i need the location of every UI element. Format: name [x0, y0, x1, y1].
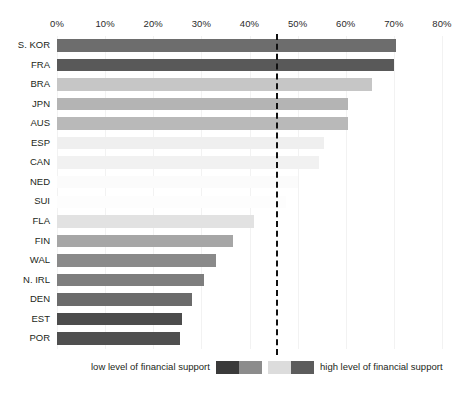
bar-row: EST	[57, 310, 442, 330]
category-label-aus: AUS	[30, 116, 50, 129]
legend-entry: low level of financial support	[91, 358, 262, 376]
bar-row: CAN	[57, 153, 442, 173]
bar	[57, 137, 324, 149]
x-axis-tick-10: 10%	[85, 18, 125, 29]
bar-row: NED	[57, 173, 442, 193]
bar-row: SUI	[57, 192, 442, 212]
bar	[57, 332, 180, 344]
category-label-fin: FIN	[35, 234, 50, 247]
bar-row: N. IRL	[57, 271, 442, 291]
legend-label: high level of financial support	[320, 360, 443, 374]
category-label-est: EST	[32, 312, 50, 325]
legend-swatch	[216, 361, 239, 374]
bar-chart: 0%10%20%30%40%50%60%70%80% S. KORFRABRAJ…	[0, 0, 470, 395]
category-label-sui: SUI	[34, 194, 50, 207]
x-axis-tick-80: 80%	[422, 18, 462, 29]
legend-label: low level of financial support	[91, 360, 210, 374]
bar-row: AUS	[57, 114, 442, 134]
x-axis-tick-0: 0%	[37, 18, 77, 29]
bar	[57, 59, 394, 71]
bar	[57, 117, 348, 129]
bar	[57, 78, 372, 90]
legend-swatch	[291, 361, 314, 374]
category-label-s-kor: S. KOR	[18, 38, 50, 51]
bar-row: WAL	[57, 251, 442, 271]
bar	[57, 215, 254, 227]
category-label-bra: BRA	[30, 77, 50, 90]
x-axis-tick-50: 50%	[278, 18, 318, 29]
bar-row: FLA	[57, 212, 442, 232]
bar-row: DEN	[57, 290, 442, 310]
category-label-esp: ESP	[31, 136, 50, 149]
legend-swatches	[268, 361, 314, 374]
threshold-line	[276, 34, 278, 355]
bar	[57, 39, 396, 51]
plot-area: S. KORFRABRAJPNAUSESPCANNEDSUIFLAFINWALN…	[57, 36, 442, 349]
category-label-fla: FLA	[33, 214, 50, 227]
legend-swatch	[239, 361, 262, 374]
bar-row: FIN	[57, 232, 442, 252]
x-axis-tick-30: 30%	[181, 18, 221, 29]
legend-swatch	[268, 361, 291, 374]
chart-legend: low level of financial supporthigh level…	[0, 358, 470, 378]
category-label-por: POR	[29, 331, 50, 344]
x-axis-tick-70: 70%	[374, 18, 414, 29]
legend-swatches	[216, 361, 262, 374]
bar	[57, 313, 182, 325]
x-axis-tick-20: 20%	[133, 18, 173, 29]
category-label-jpn: JPN	[32, 97, 50, 110]
bar	[57, 196, 286, 208]
category-label-can: CAN	[30, 155, 50, 168]
bar	[57, 235, 233, 247]
category-label-wal: WAL	[30, 253, 50, 266]
category-label-fra: FRA	[31, 58, 50, 71]
category-label-n-irl: N. IRL	[23, 273, 50, 286]
bar-row: BRA	[57, 75, 442, 95]
x-axis-tick-60: 60%	[326, 18, 366, 29]
bar	[57, 274, 204, 286]
bar	[57, 254, 216, 266]
bar	[57, 98, 348, 110]
bar-row: FRA	[57, 56, 442, 76]
bar	[57, 293, 192, 305]
bar-row: POR	[57, 329, 442, 349]
category-label-den: DEN	[30, 292, 50, 305]
bar-row: JPN	[57, 95, 442, 115]
legend-entry: high level of financial support	[268, 358, 443, 376]
x-axis-tick-40: 40%	[230, 18, 270, 29]
category-label-ned: NED	[30, 175, 50, 188]
gridline	[442, 36, 443, 349]
bar	[57, 156, 319, 168]
bar-row: S. KOR	[57, 36, 442, 56]
bar-row: ESP	[57, 134, 442, 154]
bar	[57, 176, 298, 188]
